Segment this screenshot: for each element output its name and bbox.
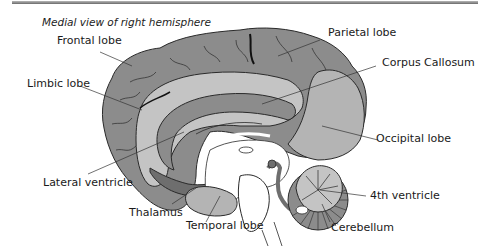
label-4th-ventricle: 4th ventricle [370,189,440,202]
label-frontal-lobe: Frontal lobe [57,34,122,47]
label-cerebellum: Cerebellum [331,221,394,234]
label-thalamus: Thalamus [129,206,183,219]
label-occipital-lobe: Occipital lobe [376,132,451,145]
label-temporal-lobe: Temporal lobe [186,219,263,232]
label-parietal-lobe: Parietal lobe [328,26,396,39]
label-lateral-ventricle: Lateral ventricle [43,176,133,189]
label-limbic-lobe: Limbic lobe [27,77,90,90]
label-corpus-callosum: Corpus Callosum [382,56,475,69]
